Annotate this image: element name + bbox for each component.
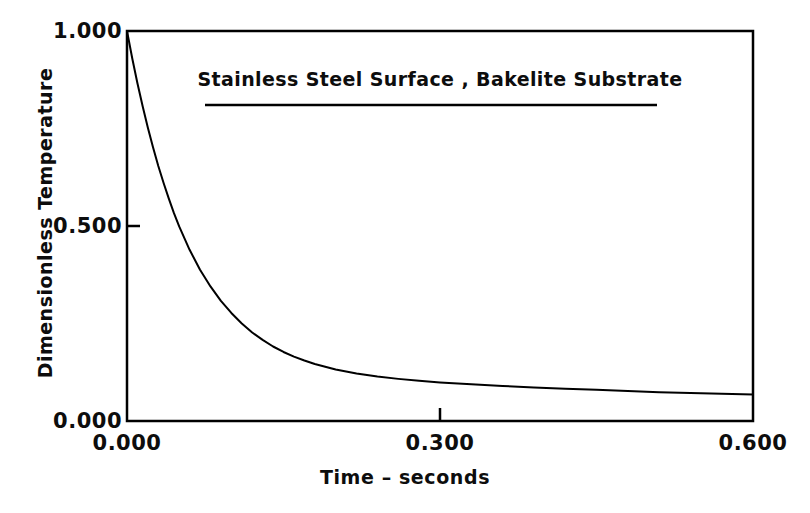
x-axis-title: Time – seconds	[0, 466, 810, 488]
chart-figure: 1.000 0.500 0.000 0.000 0.300 0.600 Time…	[0, 0, 810, 513]
axis-ticks	[127, 226, 440, 421]
y-tick-label-1000: 1.000	[22, 19, 122, 43]
x-tick-label-0300: 0.300	[380, 431, 500, 455]
y-axis-title: Dimensionless Temperature	[34, 68, 56, 379]
x-tick-label-0600: 0.600	[693, 431, 810, 455]
y-tick-label-0000: 0.000	[22, 409, 122, 433]
legend-label: Stainless Steel Surface , Bakelite Subst…	[127, 68, 753, 90]
x-tick-label-0000: 0.000	[67, 431, 187, 455]
y-axis-title-wrapper: Dimensionless Temperature	[34, 58, 60, 388]
